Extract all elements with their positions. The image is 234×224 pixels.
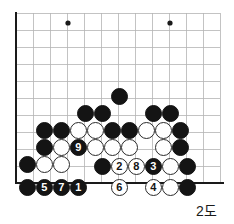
move-stone-black-9: 9	[70, 139, 87, 156]
move-stone-white-4: 4	[145, 179, 162, 196]
move-number: 6	[116, 181, 122, 192]
move-stone-black-1: 1	[70, 179, 87, 196]
stone-black	[36, 122, 53, 139]
stone-black	[179, 179, 196, 196]
move-stone-black-7: 7	[53, 179, 70, 196]
stone-black	[145, 105, 162, 122]
move-number: 4	[150, 181, 156, 192]
move-number: 2	[116, 160, 122, 171]
stone-black	[111, 88, 128, 105]
stone-white	[70, 122, 87, 139]
stone-black	[36, 139, 53, 156]
go-diagram-figure: 928357164 2도	[0, 0, 234, 224]
stone-black	[19, 179, 36, 196]
stone-white	[36, 156, 53, 173]
move-stone-white-6: 6	[111, 179, 128, 196]
move-stone-black-3: 3	[145, 158, 162, 175]
stone-black	[94, 158, 111, 175]
star-point	[167, 20, 172, 25]
stone-white	[121, 139, 138, 156]
stone-black	[172, 122, 189, 139]
stone-white	[87, 139, 104, 156]
stone-white	[53, 156, 70, 173]
stone-white	[87, 122, 104, 139]
stone-black	[172, 139, 189, 156]
stone-black	[162, 105, 179, 122]
stone-white	[155, 139, 172, 156]
stone-black	[19, 156, 36, 173]
move-stone-white-2: 2	[111, 158, 128, 175]
stone-white	[138, 122, 155, 139]
stone-black	[121, 122, 138, 139]
stone-white	[155, 122, 172, 139]
stone-black	[104, 122, 121, 139]
stone-black	[179, 158, 196, 175]
figure-caption: 2도	[196, 200, 217, 220]
stone-white	[162, 179, 179, 196]
stone-black	[77, 105, 94, 122]
move-number: 1	[75, 181, 81, 192]
move-number: 7	[58, 181, 64, 192]
move-stone-black-5: 5	[36, 179, 53, 196]
move-number: 8	[133, 160, 139, 171]
stone-black	[53, 122, 70, 139]
move-number: 5	[41, 181, 47, 192]
move-number: 9	[75, 141, 81, 152]
move-stone-white-8: 8	[128, 158, 145, 175]
move-number: 3	[150, 160, 156, 171]
stone-white	[162, 158, 179, 175]
star-point	[65, 20, 70, 25]
stone-white	[104, 139, 121, 156]
stone-black	[94, 105, 111, 122]
stone-white	[53, 139, 70, 156]
